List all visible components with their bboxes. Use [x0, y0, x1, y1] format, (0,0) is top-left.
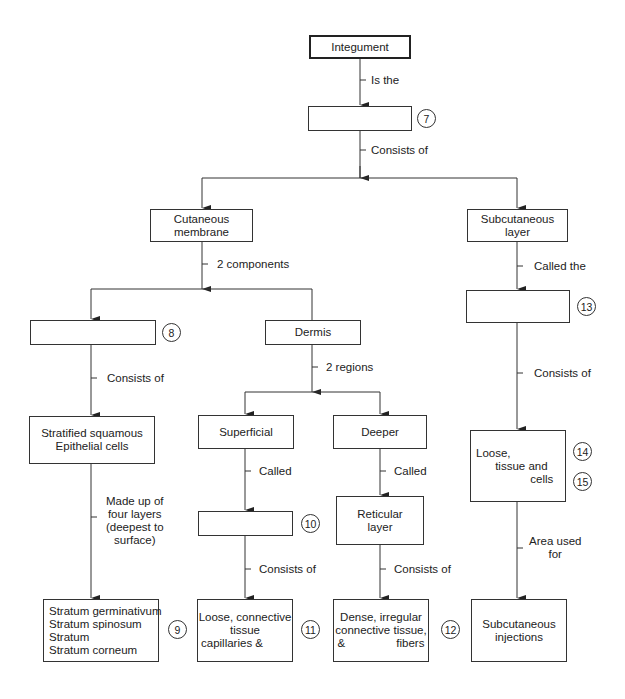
node-dense-irregular: Dense, irregular connective tissue, & fi…: [333, 599, 429, 662]
number-badge-9: 9: [168, 620, 187, 639]
node-label: Dermis: [295, 326, 331, 339]
node-label: membrane: [174, 226, 229, 239]
node-cutaneous-membrane: Cutaneous membrane: [150, 209, 253, 242]
node-loose-connective: Loose, connective tissue capillaries &: [197, 599, 293, 662]
node-label: Reticular: [357, 508, 402, 521]
node-label: layer: [505, 226, 530, 239]
node-label: Stratum corneum: [49, 644, 137, 657]
node-subcutaneous-layer: Subcutaneous layer: [467, 209, 568, 242]
node-subcutaneous-injections: Subcutaneous injections: [471, 599, 567, 662]
node-label: Stratum spinosum: [49, 618, 142, 631]
node-loose-tissue-cells: Loose, tissue and cells: [470, 430, 566, 502]
node-dermis: Dermis: [265, 320, 361, 345]
concept-map-diagram: Integument 7 Cutaneous membrane Subcutan…: [0, 0, 625, 699]
node-strata-layers: Stratum germinativum Stratum spinosum St…: [43, 599, 159, 662]
edge-label-consists-of-10: Consists of: [259, 563, 316, 576]
node-label: capillaries &: [198, 637, 263, 650]
edge-label-called-deeper: Called: [394, 465, 427, 478]
number-badge-10: 10: [301, 514, 320, 533]
node-label: Integument: [331, 41, 389, 54]
node-stratified-squamous: Stratified squamous Epithelial cells: [29, 416, 155, 464]
edge-label-made-up-of: Made up of four layers (deepest to surfa…: [106, 495, 164, 547]
node-label: Stratum germinativum: [49, 605, 161, 618]
edge-label-consists-of-right: Consists of: [534, 367, 591, 380]
number-badge-12: 12: [441, 620, 460, 639]
edge-label-consists-of-top: Consists of: [371, 144, 428, 157]
edge-label-consists-of-reticular: Consists of: [394, 563, 451, 576]
node-label: Stratum: [49, 631, 89, 644]
number-badge-14: 14: [573, 442, 592, 461]
edge-label-called-superficial: Called: [259, 465, 292, 478]
edge-label-consists-of-left: Consists of: [107, 372, 164, 385]
node-label: Cutaneous: [174, 213, 230, 226]
number-badge-15: 15: [573, 472, 592, 491]
node-label: Loose, connective: [199, 611, 292, 624]
node-label: cells: [476, 473, 553, 486]
node-label: Subcutaneous: [482, 618, 556, 631]
edge-label-2-regions: 2 regions: [326, 361, 373, 374]
node-label: layer: [368, 521, 393, 534]
node-label: Epithelial cells: [56, 440, 129, 453]
node-label: injections: [495, 631, 543, 644]
node-label: Subcutaneous: [481, 213, 555, 226]
node-integument: Integument: [309, 35, 411, 59]
node-label: Stratified squamous: [41, 427, 143, 440]
node-label: connective tissue,: [335, 624, 426, 637]
edge-label-is-the: Is the: [371, 74, 399, 87]
number-badge-8: 8: [162, 323, 181, 342]
node-label: Deeper: [361, 426, 399, 439]
node-label: tissue and: [476, 460, 548, 473]
node-10-blank: [198, 511, 293, 536]
node-label: & fibers: [338, 637, 425, 650]
number-badge-13: 13: [577, 297, 596, 316]
edge-label-2-components: 2 components: [217, 258, 289, 271]
connector-lines: [0, 0, 625, 699]
node-deeper: Deeper: [333, 415, 427, 449]
node-label: Superficial: [219, 426, 273, 439]
node-8-blank: [30, 320, 156, 345]
node-superficial: Superficial: [198, 415, 294, 449]
node-label: tissue: [230, 624, 260, 637]
number-badge-11: 11: [301, 620, 320, 639]
number-badge-7: 7: [417, 109, 436, 128]
node-label: Dense, irregular: [340, 611, 422, 624]
node-label: Loose,: [476, 447, 511, 460]
edge-label-called-the: Called the: [534, 260, 586, 273]
node-13-blank: [466, 290, 570, 323]
node-reticular-layer: Reticular layer: [336, 496, 424, 545]
node-7-blank: [308, 106, 412, 131]
edge-label-area-used-for: Area used for: [529, 535, 581, 561]
